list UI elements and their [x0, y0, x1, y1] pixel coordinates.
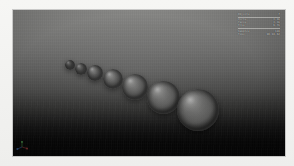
stat-value: 00:04.62 — [265, 33, 280, 36]
sphere-1[interactable] — [65, 60, 75, 70]
stat-label: Tris — [238, 24, 245, 27]
stats-rows: Objects7Verts3.4kFaces3.3kTris6.7kSample… — [238, 13, 280, 36]
stats-overlay: Objects7Verts3.4kFaces3.3kTris6.7kSample… — [237, 12, 281, 38]
stat-value: 7 — [276, 13, 280, 16]
sphere-5[interactable] — [122, 74, 148, 100]
stat-label: Time — [238, 33, 245, 36]
render-window: Objects7Verts3.4kFaces3.3kTris6.7kSample… — [0, 0, 294, 166]
stat-row: Tris6.7k — [238, 24, 280, 27]
stat-label: Objects — [238, 13, 250, 16]
sphere-3[interactable] — [87, 65, 103, 81]
stat-value: 6.7k — [271, 24, 280, 27]
stat-row: Time00:04.62 — [238, 33, 280, 36]
sphere-7[interactable] — [177, 89, 219, 131]
stat-row: Objects7 — [238, 13, 280, 16]
render-viewport[interactable]: Objects7Verts3.4kFaces3.3kTris6.7kSample… — [13, 10, 285, 156]
sphere-6[interactable] — [147, 81, 180, 114]
